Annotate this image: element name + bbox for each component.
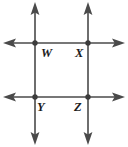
geometry-diagram-svg: W X Y Z: [0, 0, 128, 147]
vertex-point-y: [32, 94, 37, 99]
geometry-diagram-canvas: W X Y Z: [0, 0, 128, 147]
horizontal-line-top: [3, 39, 125, 48]
vertical-line-right: [84, 2, 93, 145]
vertex-label-y: Y: [37, 100, 46, 114]
vertex-label-z: Z: [73, 100, 82, 114]
vertical-line-left: [31, 2, 40, 145]
vertex-label-x: X: [74, 46, 84, 60]
vertex-label-w: W: [41, 46, 53, 60]
vertex-point-w: [32, 40, 37, 45]
vertex-point-z: [85, 94, 90, 99]
vertex-point-x: [85, 40, 90, 45]
horizontal-line-bottom: [3, 93, 125, 102]
